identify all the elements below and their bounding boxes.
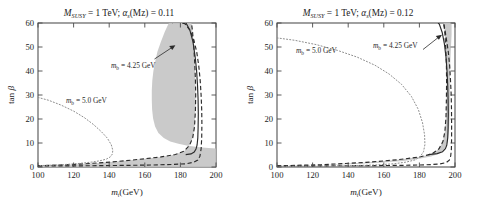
- svg-text:20: 20: [25, 114, 34, 124]
- svg-text:30: 30: [264, 90, 273, 100]
- svg-text:100: 100: [32, 170, 45, 180]
- svg-text:180: 180: [174, 170, 187, 180]
- chart-svg-right: MSUSY = 1 TeV; αs(Mz) = 0.12: [239, 0, 477, 205]
- svg-text:10: 10: [264, 138, 273, 148]
- svg-text:30: 30: [25, 90, 34, 100]
- svg-text:160: 160: [138, 170, 151, 180]
- plot-area-left: [38, 0, 216, 167]
- annotation-mb50-right: mb = 5.0 GeV: [296, 46, 338, 56]
- annotation-leader-right: [423, 35, 442, 50]
- svg-text:140: 140: [342, 170, 355, 180]
- annotation-mb425-right: mb = 4.25 GeV: [373, 41, 418, 51]
- svg-text:40: 40: [25, 66, 34, 76]
- plot-area-right: [277, 23, 455, 167]
- svg-text:180: 180: [413, 170, 426, 180]
- curve-mb5-left: [38, 97, 113, 165]
- figure-container: MSUSY = 1 TeV; αs(Mz) = 0.11: [0, 0, 477, 205]
- y-axis-tick-labels-left: 0 10 20 30 40 50 60: [25, 18, 34, 172]
- x-axis-label-right: mt(GeV): [350, 187, 382, 198]
- svg-text:120: 120: [306, 170, 319, 180]
- svg-text:50: 50: [25, 42, 34, 52]
- uncertainty-band-left: [38, 0, 216, 167]
- annotation-mb425-left: mb = 4.25 GeV: [111, 61, 156, 71]
- y-axis-tick-labels-right: 0 10 20 30 40 50 60: [264, 18, 273, 172]
- plot-frame-right: [277, 23, 455, 167]
- svg-text:20: 20: [264, 114, 273, 124]
- chart-title-right: MSUSY = 1 TeV; αs(Mz) = 0.12: [302, 8, 414, 19]
- y-axis-ticks-right: [277, 23, 455, 167]
- svg-text:160: 160: [377, 170, 390, 180]
- y-axis-label-left: tan β: [6, 86, 16, 105]
- svg-text:10: 10: [25, 138, 34, 148]
- svg-text:140: 140: [103, 170, 116, 180]
- annotation-mb50-left: mb = 5.0 GeV: [66, 96, 108, 106]
- svg-text:120: 120: [67, 170, 80, 180]
- svg-text:200: 200: [449, 170, 462, 180]
- chart-title-left: MSUSY = 1 TeV; αs(Mz) = 0.11: [63, 8, 175, 19]
- chart-panel-right: MSUSY = 1 TeV; αs(Mz) = 0.12: [239, 0, 477, 205]
- y-axis-label-right: tan β: [245, 86, 255, 105]
- curve-lower-bound-right: [277, 23, 447, 166]
- svg-text:60: 60: [25, 18, 34, 28]
- curve-mb50-right: [277, 38, 425, 166]
- svg-text:50: 50: [264, 42, 273, 52]
- svg-text:40: 40: [264, 66, 273, 76]
- x-axis-label-left: mt(GeV): [111, 187, 143, 198]
- uncertainty-band-right: [277, 23, 455, 167]
- chart-panel-left: MSUSY = 1 TeV; αs(Mz) = 0.11: [0, 0, 238, 205]
- x-axis-tick-labels-left: 100 120 140 160 180 200: [32, 170, 223, 180]
- svg-text:100: 100: [271, 170, 284, 180]
- chart-svg-left: MSUSY = 1 TeV; αs(Mz) = 0.11: [0, 0, 238, 205]
- svg-text:200: 200: [210, 170, 223, 180]
- x-axis-ticks-right: [277, 23, 455, 167]
- curve-upper-bound-right: [277, 23, 452, 166]
- svg-text:60: 60: [264, 18, 273, 28]
- x-axis-tick-labels-right: 100 120 140 160 180 200: [271, 170, 462, 180]
